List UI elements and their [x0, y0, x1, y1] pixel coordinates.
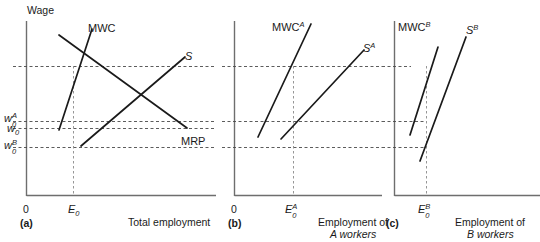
panel-b-x-axis-label-line2: A workers — [329, 228, 377, 240]
panel-a-ytick-w0B: wB0 — [4, 138, 17, 156]
panel-c-label-mwc-b: MWCB — [398, 20, 431, 33]
panel-a-x-axis-label: Total employment — [128, 216, 210, 228]
panel-a-label-mrp: MRP — [181, 135, 205, 147]
panel-b-curve-mwc-a — [258, 24, 311, 137]
panel-a-curve-mwc — [59, 29, 92, 130]
panel-b-x-axis-label-line1: Employment of — [318, 216, 388, 228]
panel-b-label-mwc-a: MWCA — [272, 20, 305, 33]
panel-b: MWCA SA 0 EA0 Employment of A workers (b… — [222, 20, 388, 240]
panel-b-xtick-E0A: EA0 — [285, 202, 297, 220]
panel-a-y-axis-label: Wage — [27, 4, 54, 16]
panel-b-tag: (b) — [228, 217, 241, 229]
panel-c: MWCB SB EB0 Employment of B workers (c) — [382, 20, 540, 240]
panel-c-x-axis-label-line1: Employment of — [455, 216, 525, 228]
panel-c-xtick-E0B: EB0 — [418, 202, 430, 220]
panel-a-curve-supply — [81, 57, 185, 146]
panel-c-curve-supply-b — [420, 37, 466, 161]
panel-a-tag: (a) — [20, 217, 33, 229]
panel-a-label-supply: S — [185, 50, 193, 62]
panel-b-label-supply-a: SA — [363, 41, 375, 54]
panel-a-curve-mrp — [59, 35, 187, 128]
panel-a-xtick-E0: E0 — [68, 203, 80, 218]
panel-a-label-mwc: MWC — [88, 22, 116, 34]
monopsony-wage-discrimination-figure: MWC S MRP Wage wA0 w0 wB0 0 E0 Total emp… — [0, 0, 540, 242]
svg-text:w0: w0 — [7, 122, 20, 137]
panel-a-ytick-w0: w0 — [7, 122, 20, 137]
panel-c-x-axis-label-line2: B workers — [467, 228, 514, 240]
panel-a: MWC S MRP Wage wA0 w0 wB0 0 E0 Total emp… — [4, 4, 216, 229]
panel-a-origin-label: 0 — [23, 203, 29, 215]
figure-canvas: MWC S MRP Wage wA0 w0 wB0 0 E0 Total emp… — [0, 0, 540, 242]
panel-c-label-supply-b: SB — [466, 23, 478, 36]
svg-text:wB0: wB0 — [4, 138, 17, 156]
panel-c-tag: (c) — [386, 217, 399, 229]
panel-b-origin-label: 0 — [231, 203, 237, 215]
